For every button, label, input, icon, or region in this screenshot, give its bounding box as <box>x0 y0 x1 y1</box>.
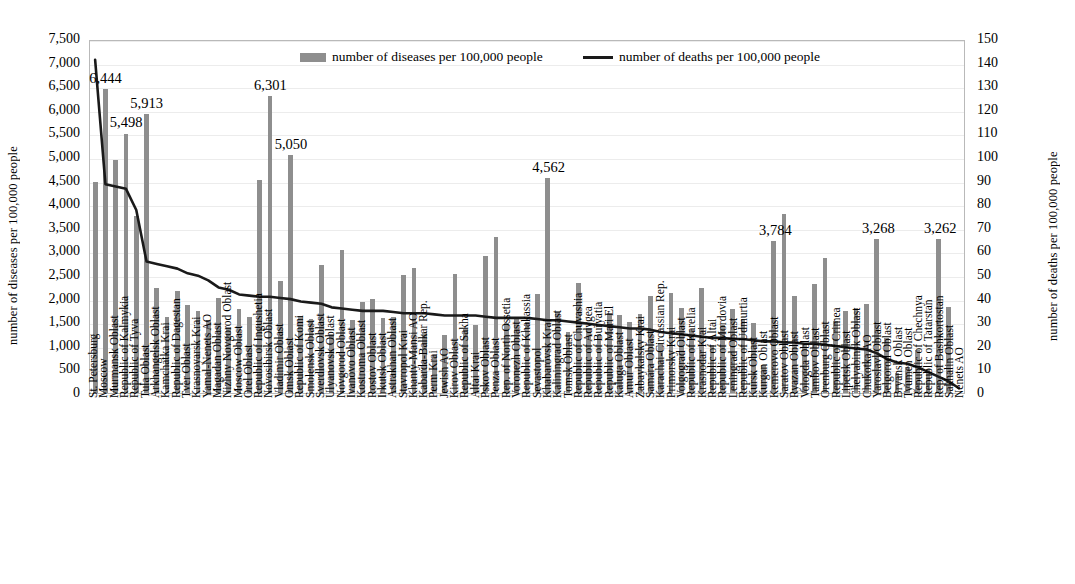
x-label-slot: Ivanovo Oblast <box>347 398 357 584</box>
legend-item-diseases: number of diseases per 100,000 people <box>300 49 543 65</box>
x-label-slot: Kostroma Oblast <box>357 398 367 584</box>
bar-value-label: 6,444 <box>89 70 122 87</box>
x-label-slot: Perm Krai <box>429 398 439 584</box>
x-label-slot: Kursk Oblast <box>749 398 759 584</box>
x-label-slot: Ulyanovsk Oblast <box>326 398 336 584</box>
x-label-slot: St. Petersburg <box>89 398 99 584</box>
x-label-slot: Rep. of Bashkortostan <box>935 398 945 584</box>
left-tick: 6,000 <box>22 103 80 117</box>
x-label-slot: Chelyabinsk Oblast <box>852 398 862 584</box>
x-label-slot: Republic of Chechnya <box>914 398 924 584</box>
x-label-slot: Omsk Oblast <box>285 398 295 584</box>
left-axis-title: number of diseases per 100,000 people <box>6 96 21 396</box>
x-label-slot: Republic of Tyva <box>130 398 140 584</box>
x-label-slot: Primorsky Krai <box>667 398 677 584</box>
x-label-slot: Tomsk Oblast <box>563 398 573 584</box>
right-tick: 110 <box>977 126 1035 140</box>
x-label-slot: Republic of Karelia <box>687 398 697 584</box>
x-label-slot: Kabarda-Balkar Rep. <box>419 398 429 584</box>
x-label-slot: Amur Oblast <box>625 398 635 584</box>
x-label-slot: Zabaykalsky Krai <box>636 398 646 584</box>
x-label-slot: Kamchatka Krai <box>161 398 171 584</box>
x-label-slot: Nizhny Novgorod Oblast <box>223 398 233 584</box>
x-label-slot: Astrakhan Oblast <box>388 398 398 584</box>
x-label-slot: Stavropol Krai <box>398 398 408 584</box>
x-label-slot: Jewish AO <box>440 398 450 584</box>
x-label-slot: Sverdlovsk Oblast <box>316 398 326 584</box>
x-label-slot: Vologda Oblast <box>801 398 811 584</box>
x-label-slot: Altai Krai <box>471 398 481 584</box>
left-tick: 4,000 <box>22 197 80 211</box>
x-label-slot: Republic of Mordovia <box>718 398 728 584</box>
x-label-slot: Tver Oblast <box>182 398 192 584</box>
legend-label-diseases: number of diseases per 100,000 people <box>332 49 543 65</box>
x-label-slot: Irkutsk Oblast <box>378 398 388 584</box>
bar-value-label: 6,301 <box>254 77 287 94</box>
left-tick: 500 <box>22 362 80 376</box>
x-label-slot: Republic of Udmurtia <box>739 398 749 584</box>
x-label-slot: Volgograd Oblast <box>677 398 687 584</box>
x-label-slot: Voronezh Oblast <box>512 398 522 584</box>
x-label-slot: Republic of Altai <box>708 398 718 584</box>
x-label-slot: Novosibirsk Oblast <box>264 398 274 584</box>
right-tick: 40 <box>977 292 1035 306</box>
x-label-slot: Republic of Chuvashia <box>574 398 584 584</box>
line-swatch-icon <box>583 56 613 59</box>
left-tick: 6,500 <box>22 79 80 93</box>
x-label-slot: Penza Oblast <box>491 398 501 584</box>
x-label-slot: Khabarovsk Krai <box>543 398 553 584</box>
x-label-slot: Orenburg Oblast <box>821 398 831 584</box>
x-label-slot: Moscow <box>99 398 109 584</box>
x-label-slot: Republic of Komi <box>295 398 305 584</box>
x-label-slot: Tambov Oblast <box>811 398 821 584</box>
x-label-slot: Republic of Crimea <box>832 398 842 584</box>
x-label-slot: Republic of Ingushetia <box>254 398 264 584</box>
right-tick: 60 <box>977 244 1035 258</box>
right-tick: 80 <box>977 197 1035 211</box>
x-label-slot: Ryazan Oblast <box>790 398 800 584</box>
left-tick: 7,000 <box>22 56 80 70</box>
x-label-slot: Samara Oblast <box>646 398 656 584</box>
x-label-slot: Republic of Mari El <box>605 398 615 584</box>
x-label-slot: Sevastopol <box>532 398 542 584</box>
chart-legend: number of diseases per 100,000 people nu… <box>300 47 820 67</box>
x-label-slot: Republic of Kalmykia <box>120 398 130 584</box>
left-tick: 7,500 <box>22 32 80 46</box>
legend-label-deaths: number of deaths per 100,000 people <box>619 49 820 65</box>
x-label-slot: Karachai-Circassian Rep. <box>656 398 666 584</box>
right-tick: 10 <box>977 362 1035 376</box>
bar-value-label: 3,262 <box>924 220 957 237</box>
bar-value-label: 5,913 <box>130 95 163 112</box>
x-label-slot: Rep. of North Ossetia <box>502 398 512 584</box>
x-label-slot: Rostov Oblast <box>367 398 377 584</box>
left-tick: 5,000 <box>22 150 80 164</box>
x-label-slot: Kemerovo Oblast <box>770 398 780 584</box>
x-label-slot: Magadan Oblast <box>213 398 223 584</box>
bar-value-label: 5,050 <box>275 136 308 153</box>
left-tick: 2,500 <box>22 268 80 282</box>
x-label-slot: Smolensk Oblast <box>306 398 316 584</box>
bar-value-label: 3,268 <box>862 220 895 237</box>
left-tick: 3,000 <box>22 244 80 258</box>
legend-item-deaths: number of deaths per 100,000 people <box>583 49 820 65</box>
left-tick: 1,500 <box>22 315 80 329</box>
x-label-slot: Lipetsk Oblast <box>842 398 852 584</box>
x-label-slot: Nenets AO <box>955 398 965 584</box>
bar-swatch-icon <box>300 53 326 62</box>
x-label-slot: Kaliningrad Oblast <box>553 398 563 584</box>
right-tick: 30 <box>977 315 1035 329</box>
left-tick: 4,500 <box>22 174 80 188</box>
bar-value-label: 5,498 <box>110 114 143 131</box>
x-label-slot: Arkhangelsk Oblast <box>151 398 161 584</box>
x-label-slot: Vladimir Oblast <box>275 398 285 584</box>
x-label-slot: Saratov Oblast <box>780 398 790 584</box>
x-label-slot: Khanty-Mansi AO <box>409 398 419 584</box>
right-tick: 100 <box>977 150 1035 164</box>
x-label-slot: Sakhalin Oblast <box>945 398 955 584</box>
right-tick: 130 <box>977 79 1035 93</box>
chart-root: number of diseases per 100,000 people nu… <box>0 0 1075 584</box>
right-tick: 140 <box>977 56 1035 70</box>
left-tick: 3,500 <box>22 221 80 235</box>
x-label-slot: Kirov Oblast <box>450 398 460 584</box>
left-tick: 2,000 <box>22 292 80 306</box>
